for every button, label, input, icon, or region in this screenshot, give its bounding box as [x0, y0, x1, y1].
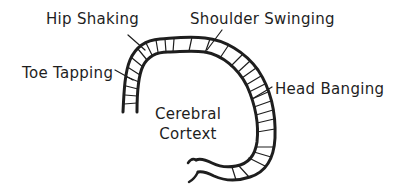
label-head-banging: Head Banging — [275, 82, 384, 97]
center-label-line2: Cortext — [148, 124, 228, 144]
label-toe-tapping: Toe Tapping — [22, 66, 113, 81]
cortex-end-squiggle-bottom — [189, 172, 198, 182]
label-hip-shaking: Hip Shaking — [46, 12, 139, 27]
center-label-line1: Cerebral — [148, 104, 228, 124]
center-label: Cerebral Cortext — [148, 104, 228, 144]
cortex-diagram: Hip Shaking Shoulder Swinging Toe Tappin… — [0, 0, 406, 196]
cortex-end-squiggle-top — [188, 159, 196, 163]
cortex-strip-drawing — [0, 0, 406, 196]
label-shoulder-swinging: Shoulder Swinging — [190, 12, 335, 27]
